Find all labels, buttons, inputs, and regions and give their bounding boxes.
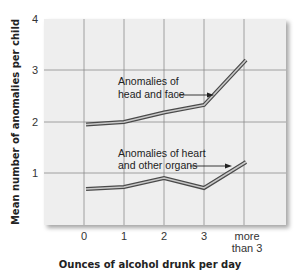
y-tick-3: 3	[32, 64, 38, 76]
x-tick-2: 2	[161, 230, 167, 242]
y-tick-2: 2	[32, 116, 38, 128]
x-axis-title: Ounces of alcohol drunk per day	[59, 259, 242, 270]
y-axis-title: Mean number of anomalies per child	[10, 19, 21, 225]
annotation-heart-line2: and other organs	[118, 159, 197, 171]
y-tick-1: 1	[32, 167, 38, 179]
x-tick-1: 1	[121, 230, 127, 242]
annotation-heart-line1: Anomalies of heart	[118, 147, 206, 159]
annotation-head-line1: Anomalies of	[118, 75, 179, 87]
line-chart: 4 3 2 1 0 1 2 3 more than 3 Ounces of al…	[0, 0, 304, 270]
annotation-head-line2: head and face	[118, 88, 185, 100]
x-tick-0: 0	[81, 230, 87, 242]
x-tick-3: 3	[201, 230, 207, 242]
y-tick-4: 4	[32, 13, 38, 25]
x-tick-more: more	[234, 230, 259, 242]
x-tick-than3: than 3	[232, 242, 263, 254]
